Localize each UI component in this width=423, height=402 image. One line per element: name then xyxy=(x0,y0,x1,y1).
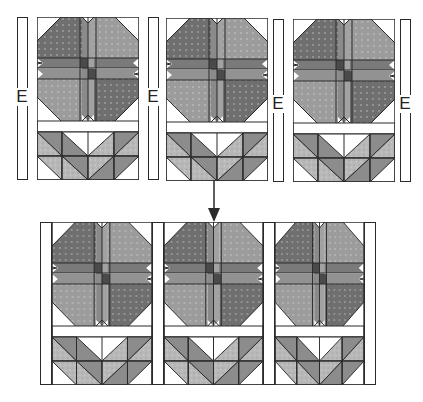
flower-block-bottom-1 xyxy=(52,222,152,385)
flower-block-graphic xyxy=(37,17,139,180)
joined-strip-1 xyxy=(40,222,52,385)
flower-block-top-1 xyxy=(37,17,139,180)
strip-label-4: E xyxy=(397,95,413,113)
joined-strip-4 xyxy=(364,222,376,385)
arrow-down-icon xyxy=(207,180,221,224)
strip-label-2: E xyxy=(145,88,161,106)
flower-block-graphic xyxy=(293,19,395,182)
joined-strip-2 xyxy=(152,222,164,385)
flower-block-bottom-3 xyxy=(275,222,364,385)
flower-block-top-3 xyxy=(293,19,395,182)
flower-block-graphic xyxy=(164,222,263,385)
flower-block-graphic xyxy=(166,18,268,181)
flower-block-top-2 xyxy=(166,18,268,181)
flower-block-graphic xyxy=(275,222,364,385)
strip-label-3: E xyxy=(270,95,286,113)
joined-strip-3 xyxy=(263,222,275,385)
flower-block-bottom-2 xyxy=(164,222,263,385)
flower-block-graphic xyxy=(52,222,152,385)
strip-label-1: E xyxy=(14,88,30,106)
